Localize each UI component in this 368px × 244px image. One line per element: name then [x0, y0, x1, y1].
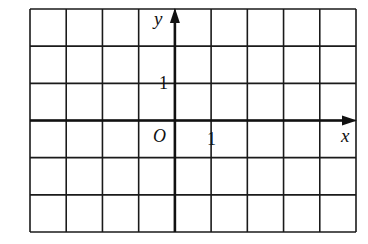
origin-label: O [153, 126, 166, 146]
y-axis-arrow-icon [170, 8, 180, 23]
x-unit-tick-label: 1 [207, 129, 216, 149]
coordinate-plane: x y O 1 1 [0, 0, 368, 244]
coordinate-grid-svg: x y O 1 1 [0, 0, 368, 244]
y-unit-tick-label: 1 [159, 73, 168, 93]
axes [30, 8, 357, 232]
y-axis-label: y [152, 8, 163, 29]
x-axis-label: x [340, 125, 350, 146]
